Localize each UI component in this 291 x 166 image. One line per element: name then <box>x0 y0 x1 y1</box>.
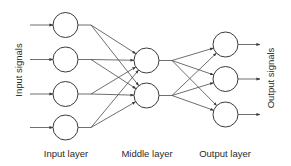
input-neuron-1 <box>53 13 78 38</box>
edge-input2-to-middle1 <box>91 60 134 61</box>
edge-input1-to-middle1 <box>91 25 136 54</box>
input-neuron-2 <box>53 47 78 72</box>
middle-layer-label: Middle layer <box>121 148 172 159</box>
input-neuron-4 <box>53 115 78 140</box>
neurons <box>53 13 238 141</box>
output-neuron-1 <box>213 32 238 57</box>
edge-input3-to-middle2 <box>91 94 134 95</box>
edge-input1-to-middle2 <box>91 25 139 86</box>
edge-input4-to-middle1 <box>91 70 139 127</box>
output-neuron-2 <box>213 67 238 92</box>
input-neuron-3 <box>53 82 78 107</box>
input-layer-label: Input layer <box>44 148 88 159</box>
input-signals-label: Input signals <box>13 43 24 97</box>
output-signals-label: Output signals <box>265 47 276 108</box>
middle-neuron-2 <box>134 83 159 108</box>
edge-middle1-to-output1 <box>172 48 214 60</box>
edge-middle1-to-output3 <box>172 61 217 106</box>
edge-input4-to-middle2 <box>91 102 136 128</box>
edge-input3-to-middle1 <box>91 67 136 94</box>
edge-middle2-to-output1 <box>172 53 216 95</box>
middle-neuron-1 <box>134 48 159 73</box>
output-neuron-3 <box>213 102 238 127</box>
edge-middle1-to-output2 <box>172 61 214 75</box>
output-layer-label: Output layer <box>199 148 251 159</box>
neural-network-diagram: Input signals Output signals Input layer… <box>0 0 291 166</box>
edge-middle2-to-output3 <box>172 96 214 111</box>
